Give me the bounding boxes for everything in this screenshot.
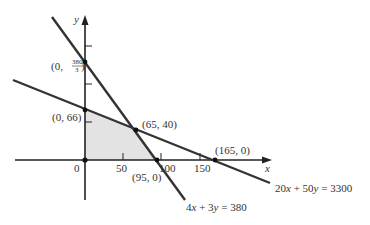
point-165-0: [213, 158, 218, 163]
y-axis-label: y: [73, 13, 79, 25]
point-65-40: [134, 128, 139, 133]
eq-part: + 50: [291, 182, 314, 194]
x-tick-label-150: 150: [194, 162, 211, 174]
frac-suffix: ): [81, 60, 85, 73]
frac-denominator: 3: [75, 66, 79, 74]
y-axis-arrow-icon: [82, 15, 89, 25]
eq-part: 20: [275, 182, 287, 194]
eq-part: = 3300: [319, 182, 353, 194]
label-point-0-66: (0, 66): [52, 111, 82, 124]
x-tick-label-50: 50: [116, 162, 128, 174]
label-point-165-0: (165, 0): [215, 144, 250, 157]
eq-part: + 3: [196, 201, 214, 213]
frac-prefix: (0,: [51, 60, 63, 73]
line-20x-50y-3300: [13, 80, 270, 183]
point-origin: [82, 157, 87, 162]
label-point-95-0: (95, 0): [132, 171, 162, 184]
lp-diagram: y x 0 50 100 150 (0, 380 3 ) (0, 66) (65…: [0, 0, 370, 225]
label-point-65-40: (65, 40): [142, 118, 177, 131]
equation-label-20x-50y-3300: 20x + 50y = 3300: [275, 182, 353, 194]
equation-label-4x-3y-380: 4x + 3y = 380: [186, 201, 247, 213]
origin-label: 0: [74, 162, 80, 174]
point-0-66: [83, 108, 88, 113]
x-axis-label: x: [264, 162, 270, 174]
eq-part: = 380: [219, 201, 248, 213]
x-tick-label-100: 100: [159, 162, 176, 174]
label-point-0-380-3: (0, 380 3 ): [51, 58, 85, 74]
